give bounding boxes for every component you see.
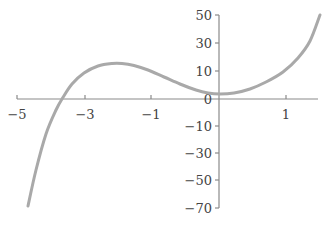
y-tick-label: −70 xyxy=(185,201,212,216)
y-tick-label: 50 xyxy=(195,8,212,23)
data-curve xyxy=(28,15,320,206)
chart: −5−3−11 5030100−10−30−50−70 xyxy=(0,0,326,225)
x-tick-label: −5 xyxy=(7,107,26,122)
axes xyxy=(17,15,318,208)
y-tick-label: −30 xyxy=(185,146,212,161)
y-tick-label: −10 xyxy=(185,119,212,134)
x-tick-label: −1 xyxy=(141,107,160,122)
x-tick-label: 1 xyxy=(282,107,290,122)
x-tick-label: −3 xyxy=(75,107,94,122)
y-ticks: 5030100−10−30−50−70 xyxy=(185,8,219,216)
y-tick-label: 30 xyxy=(195,36,212,51)
y-tick-label: −50 xyxy=(185,173,212,188)
y-tick-label: 10 xyxy=(195,64,212,79)
